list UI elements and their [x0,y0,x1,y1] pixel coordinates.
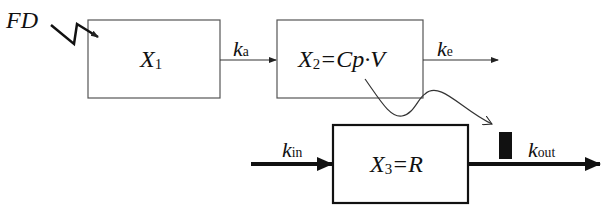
dose-zigzag-arrow [51,24,98,44]
x3-sub: 3 [385,161,392,177]
x1-sub: 1 [155,56,162,72]
ka-sub: a [243,44,249,59]
ka-label: ka [233,38,249,60]
compartment-x2-label: X2=Cp·V [298,47,385,71]
x2-sub: 2 [313,56,320,72]
ke-label: ke [437,38,453,60]
dose-label: FD [6,8,38,32]
compartment-x3-label: X3=R [370,152,423,176]
kout-sub: out [538,145,555,160]
x1-var: X [140,46,155,72]
x3-expr: =R [392,151,423,177]
x3-var: X [370,151,385,177]
kin-k: k [282,137,292,162]
kin-label: kin [282,139,302,161]
kin-sub: in [292,145,303,160]
ke-k: k [437,36,447,61]
kout-k: k [528,137,538,162]
x2-expr: =Cp·V [320,46,385,72]
diagram-canvas [0,0,605,222]
compartment-x1-label: X1 [140,47,162,71]
ke-sub: e [447,44,453,59]
ka-k: k [233,36,243,61]
x2-var: X [298,46,313,72]
inhibition-marker [499,132,512,159]
effect-link-curve [365,79,492,124]
kout-label: kout [528,139,555,161]
